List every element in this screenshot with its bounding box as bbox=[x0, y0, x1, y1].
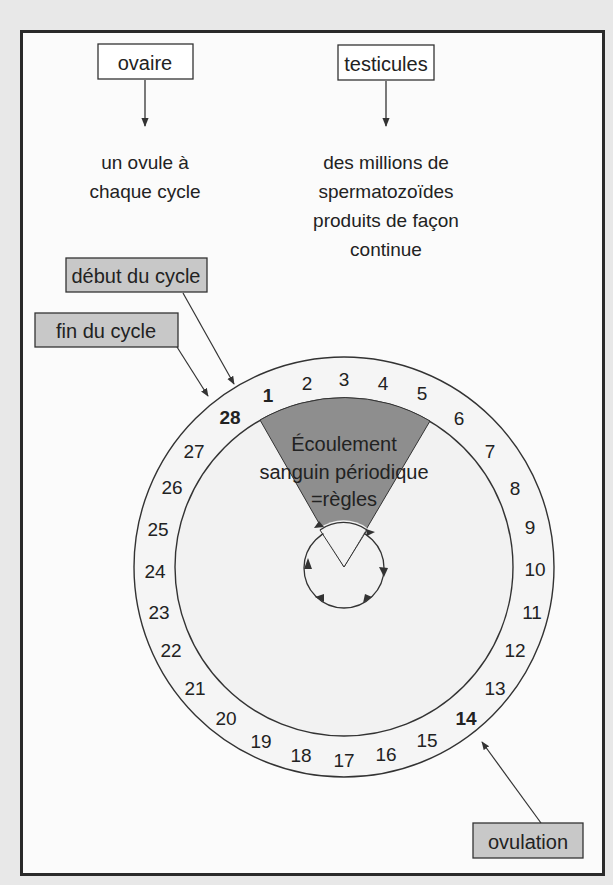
day-25: 25 bbox=[147, 519, 168, 540]
testes-desc-line-2: spermatozoïdes bbox=[318, 181, 453, 202]
cycle-start-label: début du cycle bbox=[72, 265, 201, 287]
day-4: 4 bbox=[378, 373, 389, 394]
ovary-label: ovaire bbox=[118, 52, 172, 74]
day-2: 2 bbox=[302, 373, 313, 394]
day-17: 17 bbox=[333, 750, 354, 771]
testes-desc-line-3: produits de façon bbox=[313, 210, 459, 231]
day-21: 21 bbox=[184, 678, 205, 699]
day-24: 24 bbox=[144, 561, 166, 582]
cycle-end-callout: fin du cycle bbox=[35, 313, 178, 347]
cycle-end-arrow bbox=[177, 347, 208, 396]
ovary-desc-line-2: chaque cycle bbox=[90, 181, 201, 202]
day-14: 14 bbox=[455, 708, 477, 729]
day-6: 6 bbox=[454, 408, 465, 429]
day-19: 19 bbox=[250, 731, 271, 752]
day-28: 28 bbox=[219, 407, 240, 428]
day-7: 7 bbox=[485, 441, 496, 462]
testes-box: testicules bbox=[338, 45, 434, 80]
day-8: 8 bbox=[510, 478, 521, 499]
cycle-end-label: fin du cycle bbox=[56, 320, 156, 342]
ovary-desc-line-1: un ovule à bbox=[101, 152, 189, 173]
day-3: 3 bbox=[339, 369, 350, 390]
day-18: 18 bbox=[290, 745, 311, 766]
day-13: 13 bbox=[484, 678, 505, 699]
day-27: 27 bbox=[183, 441, 204, 462]
day-5: 5 bbox=[417, 383, 428, 404]
day-16: 16 bbox=[375, 744, 396, 765]
day-11: 11 bbox=[522, 602, 542, 623]
ovulation-arrow bbox=[482, 742, 541, 823]
ovary-box: ovaire bbox=[98, 44, 193, 79]
ovulation-callout: ovulation bbox=[473, 823, 583, 858]
menstrual-cycle-diagram: ovaire un ovule à chaque cycle testicule… bbox=[0, 0, 613, 885]
cycle-wheel: Écoulement sanguin périodique =règles 1 … bbox=[134, 357, 554, 777]
day-10: 10 bbox=[524, 559, 545, 580]
cycle-start-callout: début du cycle bbox=[66, 258, 207, 292]
day-23: 23 bbox=[148, 602, 169, 623]
day-1: 1 bbox=[263, 385, 274, 406]
menstruation-line-1: Écoulement bbox=[291, 433, 397, 455]
testes-desc-line-4: continue bbox=[350, 239, 422, 260]
cycle-start-arrow bbox=[183, 293, 234, 384]
ovulation-label: ovulation bbox=[488, 831, 568, 853]
day-9: 9 bbox=[525, 517, 536, 538]
testes-desc-line-1: des millions de bbox=[323, 152, 449, 173]
menstruation-line-3: =règles bbox=[311, 488, 377, 510]
testes-label: testicules bbox=[344, 53, 427, 75]
day-20: 20 bbox=[215, 708, 236, 729]
day-15: 15 bbox=[416, 730, 437, 751]
day-22: 22 bbox=[160, 640, 181, 661]
menstruation-line-2: sanguin périodique bbox=[259, 461, 428, 483]
day-12: 12 bbox=[504, 640, 525, 661]
day-26: 26 bbox=[161, 477, 182, 498]
